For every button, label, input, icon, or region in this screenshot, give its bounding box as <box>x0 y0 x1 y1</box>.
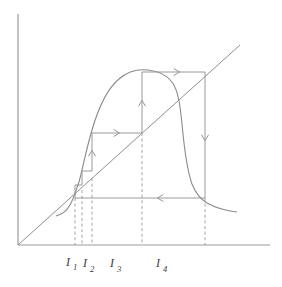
interval-label-i1-subscript: 1 <box>73 262 77 272</box>
interval-label-i2-subscript: 2 <box>90 264 95 274</box>
interval-label-i3-subscript: 3 <box>116 264 121 274</box>
interval-label-i1: I <box>65 255 71 269</box>
arrow-markers-group <box>89 69 209 202</box>
map-curve <box>56 70 237 216</box>
interval-label-i4-subscript: 4 <box>163 264 168 274</box>
interval-label-i3: I <box>109 256 115 270</box>
dashed-verticals-group <box>75 133 205 245</box>
cobweb-step-2 <box>92 133 142 171</box>
cobweb-step-3 <box>142 72 205 133</box>
cobweb-diagram-figure: I 1 I 2 I 3 I 4 <box>0 0 282 287</box>
identity-line <box>18 45 240 245</box>
interval-labels-group: I 1 I 2 I 3 I 4 <box>65 255 168 274</box>
interval-label-i2: I <box>82 256 88 270</box>
interval-label-i4: I <box>155 256 161 270</box>
cobweb-diagram-svg: I 1 I 2 I 3 I 4 <box>0 0 282 287</box>
